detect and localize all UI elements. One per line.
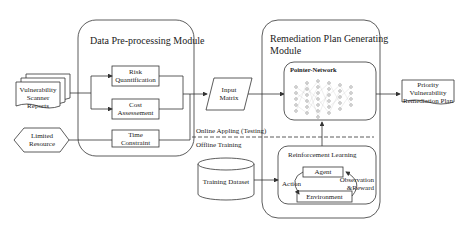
offline-phase-label: Offline Training — [196, 141, 242, 149]
input-matrix-label: Input Matrix — [210, 86, 248, 102]
agent-box: Agent — [303, 168, 343, 176]
scanner-reports-label: Vulnerability Scanner Reports — [16, 86, 60, 110]
training-dataset-label: Training Dataset — [198, 178, 254, 186]
risk-quantification-box: Risk Quantification — [112, 68, 159, 84]
environment-box: Environment — [297, 193, 352, 201]
online-phase-label: Online Appling (Testing) — [196, 127, 266, 135]
reinforcement-learning-title: Reinforcement Learning — [288, 151, 357, 159]
observation-reward-label: Observation &Reward — [334, 176, 374, 192]
output-plan-label: Priority Vulnerability Remediation Plan — [402, 81, 454, 105]
remediation-module-title: Remediation Plan Generating — [270, 33, 388, 45]
diagram-canvas — [0, 0, 467, 229]
remediation-module-title-line2: Module — [270, 45, 301, 57]
cost-assessment-box: Cost Assessement — [112, 101, 159, 117]
limited-resource-label: Limited Resource — [22, 132, 62, 148]
time-constraint-box: Time Constraint — [112, 131, 159, 147]
preprocessing-module-title: Data Pre-processing Module — [90, 35, 204, 47]
pointer-network-title: Pointer-Network — [290, 66, 337, 74]
action-label: Action — [282, 180, 301, 188]
